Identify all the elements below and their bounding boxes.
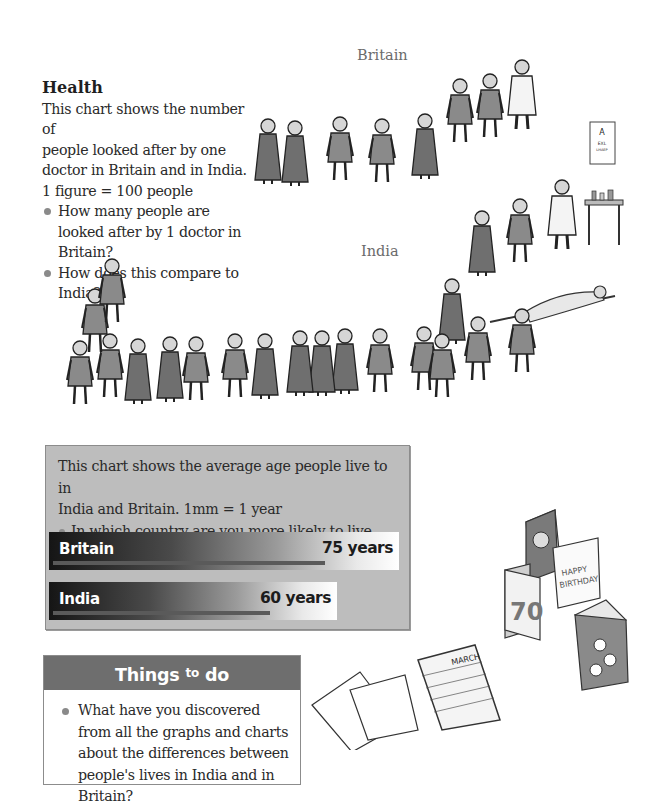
medicine-table [585,190,623,245]
bar-scale-line [53,611,270,615]
calendar-stack: MARCH [312,645,500,750]
bar-label: India [59,590,100,608]
happy-birthday-card: HAPPY BIRTHDAY [553,538,600,608]
svg-text:LHAEP: LHAEP [596,148,607,152]
svg-text:EXL: EXL [598,141,607,146]
eye-chart: A EXL LHAEP [590,122,615,164]
india-figures [67,199,533,404]
birthday-illustration: HAPPY BIRTHDAY 70 MARCH [300,490,658,750]
things-to-do-title: Things to do [44,656,300,690]
flower-card [575,600,628,690]
stretcher [490,286,615,372]
britain-figures [255,60,536,186]
things-to-do-body: What have you discovered from all the gr… [44,690,300,805]
things-to-do-box: Things to do What have you discovered fr… [43,655,301,785]
bar-india: India 60 years [49,582,337,620]
svg-text:70: 70 [510,598,543,626]
svg-text:A: A [599,128,605,137]
people-pictogram: A EXL LHAEP [0,0,658,440]
bar-scale-line [53,561,325,565]
todo-item: What have you discovered from all the gr… [62,700,292,805]
bar-label: Britain [59,540,114,558]
